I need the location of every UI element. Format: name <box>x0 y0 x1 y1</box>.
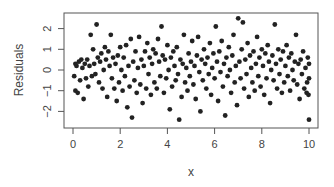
data-point <box>215 59 220 64</box>
data-point <box>243 57 248 62</box>
data-point <box>270 53 275 58</box>
data-point <box>205 55 210 60</box>
data-point <box>152 80 157 85</box>
data-point <box>97 80 102 85</box>
x-tick-label: 8 <box>259 138 265 150</box>
data-point <box>140 101 145 106</box>
data-point <box>302 86 307 91</box>
data-point <box>197 70 202 75</box>
data-point <box>305 80 310 85</box>
data-point <box>154 86 159 91</box>
data-point <box>295 82 300 87</box>
data-point <box>281 49 286 54</box>
data-point <box>301 49 306 54</box>
data-point <box>249 66 254 71</box>
data-point <box>173 78 178 83</box>
data-point <box>246 95 251 100</box>
data-point <box>252 88 257 93</box>
data-point <box>94 22 99 27</box>
data-point <box>174 45 179 50</box>
data-point <box>160 53 165 58</box>
data-point <box>79 57 84 62</box>
data-point <box>305 55 310 60</box>
data-point <box>232 80 237 85</box>
data-point <box>177 117 182 122</box>
data-point <box>202 47 207 52</box>
x-tick-label: 0 <box>70 138 76 150</box>
data-point <box>200 78 205 83</box>
data-point <box>271 78 276 83</box>
data-point <box>307 61 312 66</box>
data-point <box>307 76 312 81</box>
data-point <box>300 72 305 77</box>
data-point <box>284 43 289 48</box>
data-point <box>107 64 112 69</box>
data-point <box>182 32 187 37</box>
data-point <box>131 59 136 64</box>
data-point <box>235 103 240 108</box>
data-point <box>92 61 97 66</box>
data-point <box>229 90 234 95</box>
data-point <box>213 24 218 29</box>
data-points <box>72 16 312 122</box>
data-point <box>98 59 103 64</box>
data-point <box>204 86 209 91</box>
data-point <box>206 72 211 77</box>
data-point <box>123 74 128 79</box>
x-axis: 0246810 <box>70 128 315 150</box>
data-point <box>297 97 302 102</box>
residual-scatter-plot: 0246810 −2−1012 x Residuals <box>0 0 334 187</box>
data-point <box>248 53 253 58</box>
data-point <box>176 72 181 77</box>
data-point <box>228 68 233 73</box>
data-point <box>127 84 132 89</box>
data-point <box>291 78 296 83</box>
data-point <box>272 22 277 27</box>
data-point <box>149 92 154 97</box>
data-point <box>184 66 189 71</box>
data-point <box>225 74 230 79</box>
y-axis: −2−1012 <box>41 26 64 118</box>
data-point <box>105 95 110 100</box>
data-point <box>163 57 168 62</box>
data-point <box>190 39 195 44</box>
data-point <box>223 113 228 118</box>
data-point <box>139 57 144 62</box>
data-point <box>186 51 191 56</box>
y-tick-label: 1 <box>41 46 53 52</box>
data-point <box>226 45 231 50</box>
data-point <box>251 49 256 54</box>
data-point <box>159 24 164 29</box>
data-point <box>169 55 174 60</box>
data-point <box>72 74 77 79</box>
data-point <box>124 43 129 48</box>
data-point <box>237 59 242 64</box>
data-point <box>93 72 98 77</box>
y-axis-title: Residuals <box>12 44 26 97</box>
data-point <box>185 88 190 93</box>
data-point <box>268 101 273 106</box>
data-point <box>254 61 259 66</box>
data-point <box>208 41 213 46</box>
x-tick-label: 10 <box>303 138 315 150</box>
data-point <box>306 92 311 97</box>
data-point <box>256 74 261 79</box>
data-point <box>156 37 161 42</box>
data-point <box>192 64 197 69</box>
data-point <box>104 57 109 62</box>
data-point <box>110 76 115 81</box>
y-tick-label: 0 <box>41 67 53 73</box>
data-point <box>171 49 176 54</box>
data-point <box>113 61 118 66</box>
data-point <box>193 97 198 102</box>
data-point <box>198 109 203 114</box>
data-point <box>287 55 292 60</box>
data-point <box>196 35 201 40</box>
data-point <box>209 92 214 97</box>
data-point <box>210 66 215 71</box>
data-point <box>103 45 108 50</box>
data-point <box>258 84 263 89</box>
data-point <box>255 35 260 40</box>
y-tick-label: 2 <box>41 26 53 32</box>
data-point <box>298 57 303 62</box>
